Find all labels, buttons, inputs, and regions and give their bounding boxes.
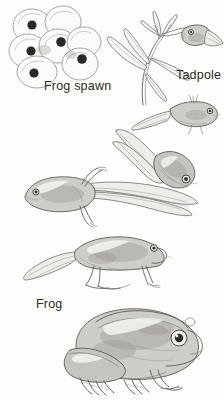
froglet-illustration [16,232,184,300]
label-tadpole: Tadpole [176,69,221,82]
left-margin [0,0,7,400]
tadpole-hind-legs-illustration [20,166,202,234]
frog-spawn-illustration [8,6,103,86]
adult-frog-illustration [40,300,212,396]
frog-life-cycle-illustration: Frog spawn [0,0,224,400]
